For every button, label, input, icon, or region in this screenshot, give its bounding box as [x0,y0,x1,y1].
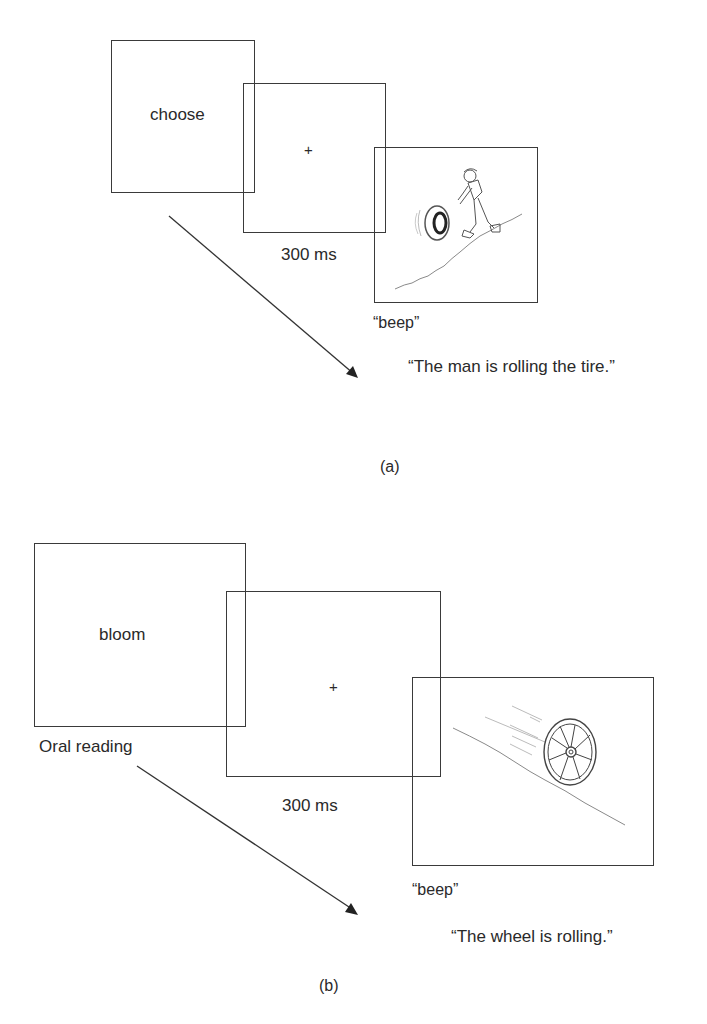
panel-b-time-arrow [0,0,707,1024]
panel-b-label: (b) [319,978,339,994]
arrowhead-icon [345,903,358,915]
